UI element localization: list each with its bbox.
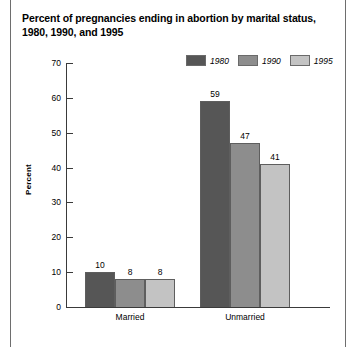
- y-tick-70: [66, 63, 73, 64]
- y-tick-label-30: 30: [40, 198, 61, 206]
- bar-married-1980: [85, 272, 115, 307]
- group-label-unmarried: Unmarried: [205, 312, 285, 322]
- y-axis-title: Percent: [24, 150, 33, 210]
- y-tick-40: [66, 168, 73, 169]
- bar-value-married-1995: 8: [145, 268, 175, 277]
- y-tick-0: [66, 307, 73, 308]
- y-tick-20: [66, 237, 73, 238]
- bar-unmarried-1990: [230, 143, 260, 307]
- group-label-married: Married: [90, 312, 170, 322]
- y-tick-50: [66, 133, 73, 134]
- y-tick-label-50: 50: [40, 129, 61, 137]
- y-tick-label-40: 40: [40, 164, 61, 172]
- bar-unmarried-1995: [260, 164, 290, 307]
- y-tick-30: [66, 202, 73, 203]
- x-axis-line: [66, 307, 330, 308]
- y-tick-label-70: 70: [40, 59, 61, 67]
- bar-value-married-1990: 8: [115, 268, 145, 277]
- bar-married-1995: [145, 279, 175, 307]
- y-tick-label-10: 10: [40, 268, 61, 276]
- bar-unmarried-1980: [200, 101, 230, 307]
- bar-value-married-1980: 10: [85, 261, 115, 270]
- chart-figure: Percent of pregnancies ending in abortio…: [0, 0, 361, 347]
- bar-value-unmarried-1980: 59: [200, 90, 230, 99]
- bar-value-unmarried-1990: 47: [230, 132, 260, 141]
- plot-area: Percent 010203040506070 1088594741 Marri…: [0, 0, 361, 347]
- y-tick-label-0: 0: [40, 303, 61, 311]
- bar-married-1990: [115, 279, 145, 307]
- y-tick-60: [66, 98, 73, 99]
- y-tick-label-60: 60: [40, 94, 61, 102]
- y-tick-10: [66, 272, 73, 273]
- bar-value-unmarried-1995: 41: [260, 153, 290, 162]
- y-tick-label-20: 20: [40, 233, 61, 241]
